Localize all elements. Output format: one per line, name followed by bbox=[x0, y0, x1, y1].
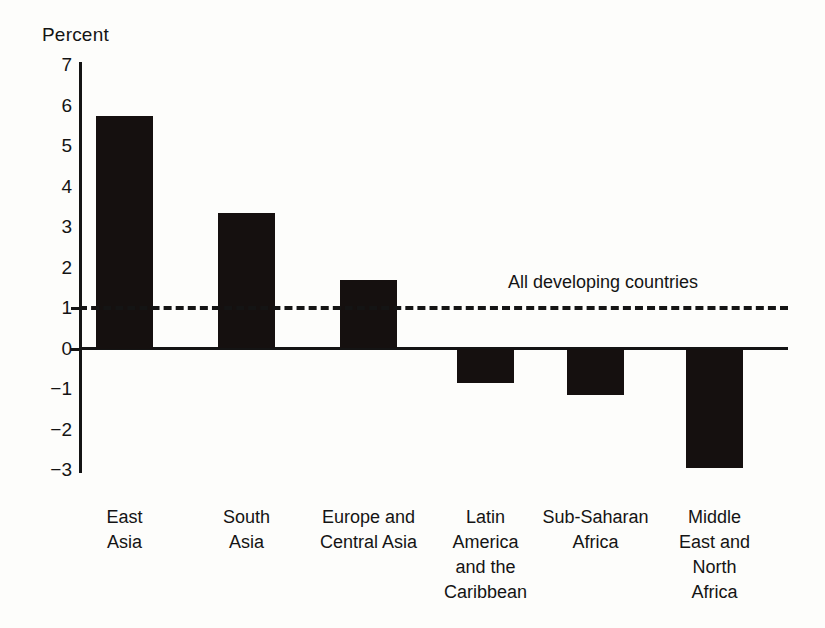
y-axis-tick-label: 3 bbox=[22, 217, 72, 237]
y-axis-tick-label: 4 bbox=[22, 177, 72, 197]
y-axis-tick-mark bbox=[71, 348, 81, 351]
x-axis-category-label-line: Africa bbox=[625, 580, 805, 605]
y-axis-tick-label: −2 bbox=[22, 420, 72, 440]
y-axis-tick-label: 2 bbox=[22, 258, 72, 278]
chart-figure: Percent 76543210−1−2−3 All developing co… bbox=[0, 0, 825, 628]
y-axis-tick-label: 7 bbox=[22, 55, 72, 75]
plot-area: 76543210−1−2−3 All developing countries … bbox=[0, 0, 825, 628]
y-axis-tick-label: −3 bbox=[22, 460, 72, 480]
bar bbox=[96, 116, 153, 349]
y-axis-line bbox=[79, 62, 82, 473]
y-axis-tick-label: −1 bbox=[22, 379, 72, 399]
bar bbox=[567, 349, 624, 396]
x-axis-category-label: MiddleEast andNorthAfrica bbox=[625, 505, 805, 605]
y-axis-tick-label: 5 bbox=[22, 136, 72, 156]
y-axis-tick-label: 1 bbox=[22, 298, 72, 318]
bar bbox=[457, 349, 514, 383]
x-axis-category-label-line: North bbox=[625, 555, 805, 580]
x-axis-category-label-line: East and bbox=[625, 530, 805, 555]
bar bbox=[340, 280, 397, 349]
x-axis-category-label-line: and the bbox=[396, 555, 576, 580]
x-axis-category-label-line: Middle bbox=[625, 505, 805, 530]
bar bbox=[218, 213, 275, 349]
x-axis-category-label-line: Caribbean bbox=[396, 580, 576, 605]
zero-axis-line bbox=[79, 347, 788, 350]
reference-line bbox=[79, 306, 788, 310]
bar bbox=[686, 349, 743, 468]
reference-line-label: All developing countries bbox=[508, 272, 698, 293]
y-axis-tick-label: 6 bbox=[22, 96, 72, 116]
y-axis-tick-label: 0 bbox=[22, 339, 72, 359]
